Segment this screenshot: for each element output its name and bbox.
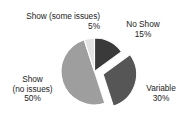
pie-slice-variable[interactable] [103, 55, 137, 107]
pie-label-variable-value: 30% [139, 94, 183, 104]
pie-label-show-some-issues-name: Show (some issues) [4, 12, 100, 22]
pie-label-show-some-issues-value: 5% [4, 22, 100, 32]
pie-label-no-show: No Show 15% [114, 20, 172, 39]
pie-label-show-no-issues: Show (no issues) 50% [1, 75, 64, 104]
pie-label-show-some-issues: Show (some issues) 5% [4, 12, 100, 31]
pie-chart: Show (some issues) 5% No Show 15% Variab… [0, 0, 184, 126]
pie-label-variable: Variable 30% [139, 84, 183, 103]
pie-label-show-no-issues-value: 50% [1, 94, 64, 104]
pie-label-no-show-value: 15% [114, 30, 172, 40]
